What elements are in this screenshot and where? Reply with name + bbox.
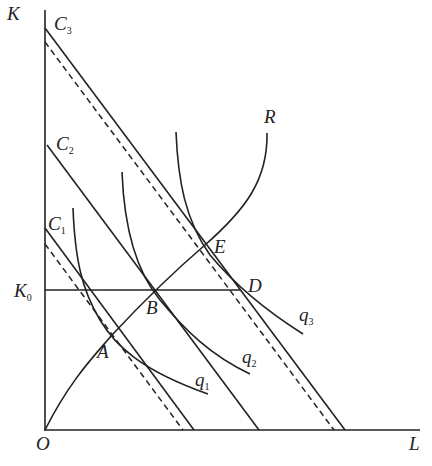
c3-label: C3	[54, 13, 72, 36]
q2-label: q2	[242, 346, 257, 369]
c1-label: C1	[48, 213, 66, 236]
isoquant-q3	[176, 132, 303, 334]
point-a-label: A	[95, 341, 109, 362]
isoquant-isocost-diagram: K L O K0 C3 C2 C1 q1 q2 q3 R A B D E	[0, 0, 432, 466]
isocost-c1-dashed	[45, 244, 183, 430]
isocost-c1	[45, 228, 194, 430]
origin-label: O	[36, 433, 50, 454]
isocost-c3-dashed	[45, 42, 334, 430]
q3-label: q3	[299, 304, 314, 327]
k-axis-label: K	[6, 3, 21, 24]
point-b-label: B	[146, 297, 158, 318]
k0-label: K0	[13, 280, 32, 303]
q1-label: q1	[195, 369, 210, 392]
point-d-label: D	[247, 275, 262, 296]
l-axis-label: L	[408, 433, 420, 454]
isoquant-q1	[73, 208, 208, 394]
r-label: R	[263, 106, 276, 127]
point-e-label: E	[213, 236, 226, 257]
c2-label: C2	[56, 133, 74, 156]
